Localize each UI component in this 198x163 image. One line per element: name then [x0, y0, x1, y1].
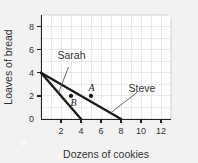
- x-tick-label: 8: [118, 126, 123, 136]
- x-tick-label: 2: [58, 126, 63, 136]
- y-tick-label: 2: [29, 91, 34, 101]
- plot-area-background: [41, 15, 171, 119]
- chart-figure: 02468 24681012 AB SarahSteve Dozens of c…: [0, 0, 198, 163]
- x-tick-label: 12: [156, 126, 166, 136]
- data-point-label-b: B: [70, 97, 76, 108]
- y-tick-label: 8: [29, 22, 34, 32]
- data-point-label-a: A: [87, 82, 95, 93]
- x-axis-label: Dozens of cookies: [63, 148, 149, 160]
- annotation-label-steve: Steve: [129, 82, 156, 94]
- x-tick-label: 6: [98, 126, 103, 136]
- y-tick-label: 0: [29, 114, 34, 124]
- y-axis-label: Loaves of bread: [2, 29, 14, 104]
- chart-canvas: 02468 24681012 AB SarahSteve Dozens of c…: [0, 0, 198, 163]
- x-tick-label: 10: [136, 126, 146, 136]
- data-point-a: [89, 94, 93, 98]
- y-tick-label: 4: [29, 68, 34, 78]
- x-tick-label: 4: [78, 126, 83, 136]
- annotation-label-sarah: Sarah: [57, 49, 85, 61]
- y-tick-label: 6: [29, 45, 34, 55]
